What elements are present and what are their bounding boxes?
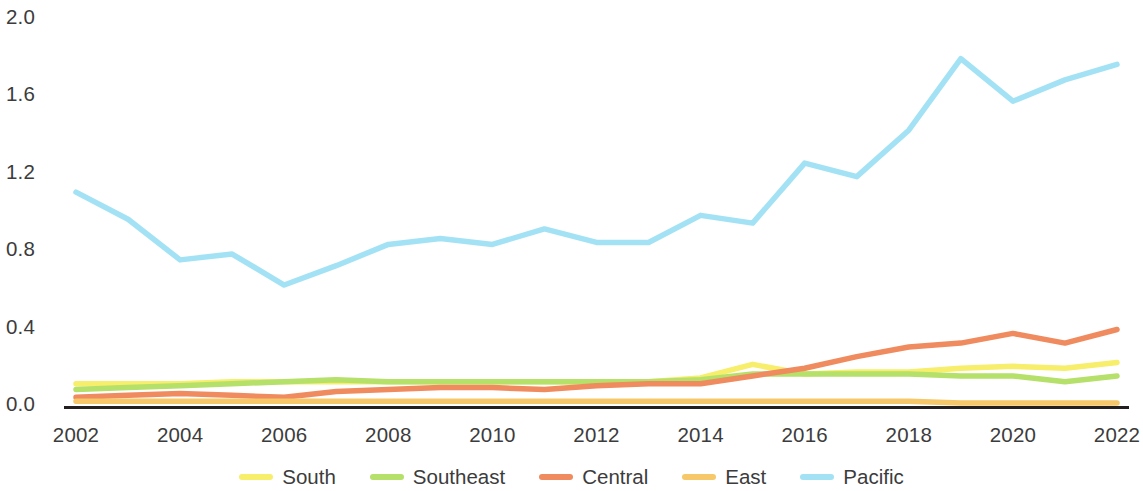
legend-swatch-icon-central (539, 474, 573, 480)
legend-item-east[interactable]: East (682, 465, 766, 489)
legend-swatch-icon-south (239, 474, 273, 480)
line-chart: 0.00.40.81.21.62.0 200220042006200820102… (0, 0, 1143, 491)
series-line-central (76, 330, 1117, 398)
legend-swatch-icon-pacific (800, 474, 834, 480)
legend-label: South (282, 465, 336, 489)
legend-item-central[interactable]: Central (539, 465, 648, 489)
legend-label: East (725, 465, 766, 489)
series-line-east (76, 401, 1117, 403)
chart-legend: SouthSoutheastCentralEastPacific (0, 462, 1143, 491)
legend-swatch-icon-east (682, 474, 716, 480)
legend-label: Southeast (413, 465, 505, 489)
legend-item-southeast[interactable]: Southeast (370, 465, 505, 489)
series-line-pacific (76, 59, 1117, 285)
legend-label: Pacific (843, 465, 903, 489)
legend-label: Central (582, 465, 648, 489)
plot-area (0, 0, 1143, 491)
legend-item-south[interactable]: South (239, 465, 336, 489)
legend-item-pacific[interactable]: Pacific (800, 465, 903, 489)
legend-swatch-icon-southeast (370, 474, 404, 480)
